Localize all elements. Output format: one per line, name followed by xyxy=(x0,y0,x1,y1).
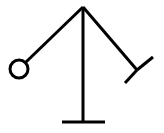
left-arm-line xyxy=(26,7,83,62)
right-arm-line xyxy=(83,7,137,70)
diagram-svg xyxy=(0,0,164,133)
arm-tip-upper-line xyxy=(137,57,153,70)
arm-tip-lower-line xyxy=(125,70,137,83)
ball-circle xyxy=(10,60,28,78)
diagram-canvas xyxy=(0,0,164,133)
